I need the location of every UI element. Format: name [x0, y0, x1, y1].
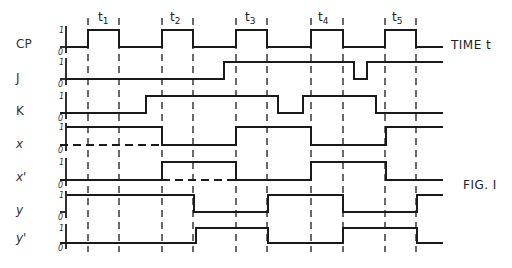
waveform-x-prime: [60, 162, 443, 180]
level-one-label: 1: [59, 191, 64, 200]
level-one-label: 1: [59, 224, 64, 233]
waveform-y: [67, 195, 443, 212]
level-one-label: 1: [59, 92, 64, 101]
signal-label: x: [16, 137, 23, 151]
signal-label: J: [16, 71, 20, 85]
waveform-j: [66, 62, 443, 79]
clock-edge-guides: [88, 18, 416, 252]
figure-caption: FIG. I: [463, 178, 497, 192]
waveforms: [60, 30, 443, 243]
signal-label: K: [16, 104, 24, 118]
time-axis-label: TIME t: [451, 38, 491, 52]
level-zero-label: 0: [58, 114, 63, 123]
signal-label: y: [16, 203, 23, 217]
period-label-t2: t2: [170, 10, 180, 26]
waveform-x: [66, 127, 443, 145]
period-label-t1: t1: [98, 10, 108, 26]
level-zero-label: 0: [58, 244, 63, 253]
signal-label: x': [16, 170, 26, 184]
level-zero-label: 0: [58, 213, 63, 222]
level-zero-label: 0: [58, 48, 63, 57]
level-one-label: 1: [59, 26, 64, 35]
period-label-t5: t5: [392, 10, 402, 26]
signal-label: CP: [16, 37, 32, 51]
waveform-cp: [66, 30, 443, 47]
period-label-t4: t4: [318, 10, 328, 26]
period-label-t3: t3: [245, 10, 255, 26]
signal-label: y': [16, 231, 26, 245]
timing-diagram: [0, 0, 512, 268]
level-one-label: 1: [59, 158, 64, 167]
level-zero-label: 0: [58, 181, 63, 190]
level-one-label: 1: [59, 123, 64, 132]
level-zero-label: 0: [58, 146, 63, 155]
level-one-label: 1: [59, 58, 64, 67]
level-zero-label: 0: [58, 80, 63, 89]
